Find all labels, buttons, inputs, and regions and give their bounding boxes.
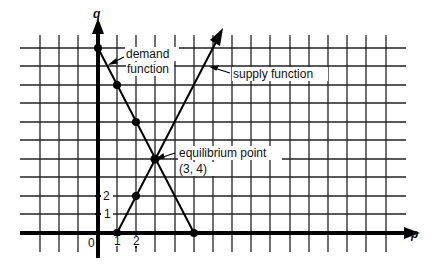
x-tick-1: 1	[114, 234, 121, 248]
origin-label: 0	[88, 236, 95, 250]
equilibrium-label: equilibrium point	[179, 146, 267, 160]
y-axis-label: q	[93, 7, 101, 21]
y-tick-2: 2	[103, 189, 110, 203]
supply-label: supply function	[233, 67, 313, 81]
axes	[20, 18, 420, 258]
supply-arrow-icon	[210, 28, 223, 46]
demand-label-line1: demand	[126, 47, 169, 61]
supply-demand-chart: q p 0 1 2 2 1 demand function supply fun…	[0, 0, 434, 267]
demand-label-line2: function	[127, 62, 169, 76]
x-axis-label: p	[410, 227, 418, 241]
y-tick-1: 1	[104, 207, 111, 221]
equilibrium-coords: (3, 4)	[179, 162, 207, 176]
x-tick-2: 2	[133, 234, 140, 248]
